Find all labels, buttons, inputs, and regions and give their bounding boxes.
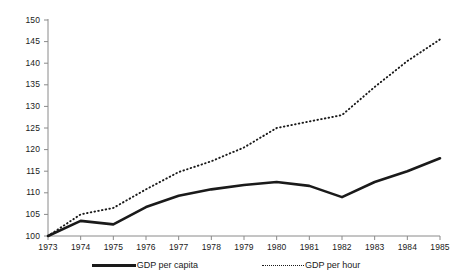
legend-entry-gdp-per-capita[interactable]: GDP per capita — [92, 258, 198, 272]
x-axis-tick-label: 1982 — [325, 243, 359, 252]
data-series-group — [48, 39, 440, 236]
legend-line-swatch-solid — [92, 260, 136, 270]
legend-label: GDP per capita — [137, 260, 198, 270]
y-axis-tick-label: 120 — [16, 145, 40, 154]
y-axis-tick-label: 110 — [16, 188, 40, 197]
y-axis-tick-label: 130 — [16, 102, 40, 111]
x-axis-tick-label: 1974 — [64, 243, 98, 252]
y-axis-tick-label: 135 — [16, 80, 40, 89]
x-axis-tick-label: 1979 — [227, 243, 261, 252]
chart-legend: GDP per capitaGDP per hour — [0, 255, 452, 275]
chart-plot-area — [0, 0, 452, 279]
y-axis-tick-label: 145 — [16, 37, 40, 46]
y-axis-tick-label: 140 — [16, 59, 40, 68]
x-axis-tick-label: 1973 — [31, 243, 65, 252]
x-axis-tick-label: 1977 — [162, 243, 196, 252]
legend-label: GDP per hour — [305, 260, 360, 270]
chart-container: 100105110115120125130135140145150 197319… — [0, 0, 452, 279]
x-axis-tick-label: 1975 — [96, 243, 130, 252]
series-line-gdp-per-hour — [48, 39, 440, 236]
y-axis-tick-label: 105 — [16, 210, 40, 219]
y-axis-tick-label: 115 — [16, 167, 40, 176]
x-axis — [48, 236, 440, 240]
y-axis — [44, 19, 48, 236]
y-axis-tick-label: 125 — [16, 124, 40, 133]
y-axis-tick-label: 150 — [16, 16, 40, 25]
legend-entry-gdp-per-hour[interactable]: GDP per hour — [260, 258, 360, 272]
x-axis-tick-label: 1981 — [292, 243, 326, 252]
x-axis-tick-label: 1978 — [194, 243, 228, 252]
series-line-gdp-per-capita — [48, 158, 440, 236]
x-axis-tick-label: 1976 — [129, 243, 163, 252]
x-axis-tick-label: 1985 — [423, 243, 452, 252]
legend-line-swatch-dotted — [260, 260, 304, 270]
y-axis-tick-label: 100 — [16, 232, 40, 241]
x-axis-tick-label: 1980 — [260, 243, 294, 252]
x-axis-tick-label: 1983 — [358, 243, 392, 252]
x-axis-tick-label: 1984 — [390, 243, 424, 252]
